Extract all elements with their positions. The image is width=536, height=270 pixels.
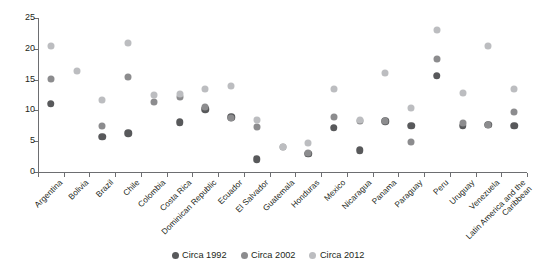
data-point: [382, 70, 389, 77]
x-tick-mark: [64, 173, 65, 177]
data-point: [305, 140, 312, 147]
legend-swatch-icon: [309, 252, 316, 259]
y-tick-label: 25: [25, 12, 35, 22]
data-point: [202, 103, 209, 110]
data-point: [330, 85, 337, 92]
data-point: [279, 143, 286, 150]
x-tick-mark: [398, 173, 399, 177]
y-tick-label: 5: [30, 135, 35, 145]
legend-swatch-icon: [172, 252, 179, 259]
y-tick-label: 10: [25, 104, 35, 114]
x-tick-mark: [167, 173, 168, 177]
data-point: [228, 83, 235, 90]
x-tick-mark: [244, 173, 245, 177]
data-point: [305, 149, 312, 156]
x-tick-mark: [501, 173, 502, 177]
data-point: [356, 147, 364, 155]
x-axis-labels: ArgentinaBoliviaBrazilChileColombiaCosta…: [38, 178, 530, 250]
data-point: [150, 99, 157, 106]
x-tick-mark: [450, 173, 451, 177]
x-tick-mark: [321, 173, 322, 177]
data-point: [47, 100, 55, 108]
data-point: [73, 67, 80, 74]
legend-label: Circa 2012: [320, 250, 364, 260]
legend-item[interactable]: Circa 1992: [172, 250, 227, 260]
x-tick-mark: [373, 173, 374, 177]
data-point: [99, 96, 106, 103]
data-point: [330, 114, 337, 121]
x-tick-mark: [347, 173, 348, 177]
x-tick-mark: [89, 173, 90, 177]
plot-area: 0510152025: [38, 14, 530, 176]
x-tick-mark: [218, 173, 219, 177]
x-axis-line: [38, 172, 527, 173]
data-point: [408, 104, 415, 111]
data-point: [99, 122, 106, 129]
x-tick-mark: [476, 173, 477, 177]
y-tick-label: 0: [30, 166, 35, 176]
chart-legend: Circa 1992Circa 2002Circa 2012: [0, 250, 536, 260]
data-point: [47, 43, 54, 50]
data-point: [253, 124, 260, 131]
y-axis-line: [38, 18, 39, 173]
data-point: [511, 108, 518, 115]
x-tick-mark: [527, 173, 528, 177]
data-point: [253, 155, 261, 163]
x-tick-mark: [424, 173, 425, 177]
legend-label: Circa 2002: [251, 250, 295, 260]
data-point: [99, 133, 107, 141]
data-point: [511, 86, 518, 93]
data-point: [176, 118, 184, 126]
data-point: [459, 89, 466, 96]
x-tick-mark: [141, 173, 142, 177]
data-point: [459, 120, 466, 127]
legend-label: Circa 1992: [182, 250, 226, 260]
data-point: [202, 86, 209, 93]
legend-item[interactable]: Circa 2012: [309, 250, 364, 260]
legend-item[interactable]: Circa 2002: [241, 250, 296, 260]
data-point: [382, 117, 389, 124]
x-tick-mark: [295, 173, 296, 177]
y-tick-label: 15: [25, 74, 35, 84]
x-axis-label: Latin America and the Caribbean: [462, 178, 535, 251]
x-tick-mark: [115, 173, 116, 177]
data-point: [433, 26, 440, 33]
data-point: [485, 121, 492, 128]
data-point: [407, 122, 415, 130]
data-point: [176, 90, 183, 97]
data-point: [330, 124, 338, 132]
data-point: [125, 74, 132, 81]
data-point: [253, 116, 260, 123]
data-point: [485, 43, 492, 50]
data-point: [433, 72, 441, 80]
data-point: [433, 55, 440, 62]
x-tick-mark: [270, 173, 271, 177]
data-point: [228, 115, 235, 122]
legend-swatch-icon: [241, 252, 248, 259]
y-tick-label: 20: [25, 43, 35, 53]
data-point: [150, 92, 157, 99]
x-tick-mark: [192, 173, 193, 177]
data-point: [47, 75, 54, 82]
data-point: [125, 39, 132, 46]
data-point: [510, 122, 518, 130]
data-point: [124, 129, 132, 137]
x-tick-mark: [38, 173, 39, 177]
data-point: [356, 116, 363, 123]
data-point: [408, 139, 415, 146]
scatter-chart: Percent 0510152025 ArgentinaBoliviaBrazi…: [0, 0, 536, 270]
